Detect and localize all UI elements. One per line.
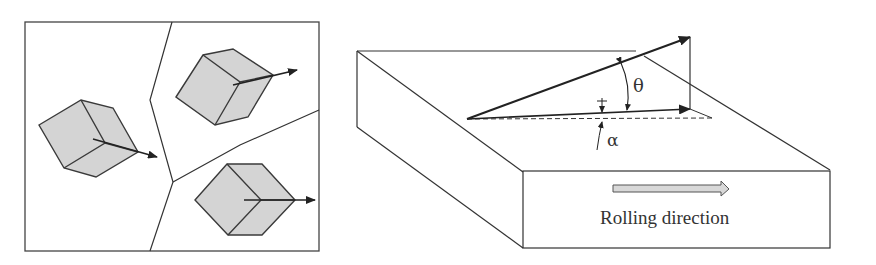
alpha-marker-bottom <box>597 122 602 150</box>
cube-grain-left <box>39 100 157 177</box>
theta-label: θ <box>633 75 644 96</box>
rolling-direction-arrow-icon <box>613 181 729 196</box>
projected-direction-arrow <box>467 109 690 119</box>
rolling-direction-label: Rolling direction <box>600 207 730 228</box>
rolled-sheet-panel: θ α Rolling direction <box>357 37 830 248</box>
theta-arc <box>621 63 628 110</box>
crystal-direction-arrow <box>467 37 690 119</box>
alpha-label: α <box>607 130 619 150</box>
figure-canvas: θ α Rolling direction <box>0 0 876 265</box>
grain-microstructure-panel <box>25 22 319 251</box>
cube-grain-bottom-right <box>195 164 315 235</box>
grain-boundary <box>150 22 173 251</box>
cube-grain-top-right <box>176 49 297 125</box>
